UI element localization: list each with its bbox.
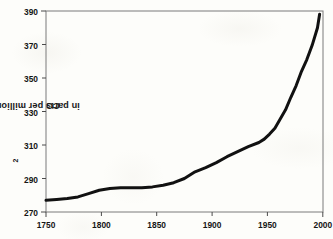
plot-frame: [46, 11, 323, 212]
x-tick-label-1850: 1850: [142, 220, 172, 230]
y-tick-label-330: 330: [14, 108, 38, 118]
y-tick-label-350: 350: [14, 74, 38, 84]
x-tick-label-1950: 1950: [252, 220, 282, 230]
x-tick-label-1900: 1900: [197, 220, 227, 230]
y-tick-label-290: 290: [14, 175, 38, 185]
y-tick-label-370: 370: [14, 41, 38, 51]
x-tick-label-1750: 1750: [31, 220, 61, 230]
x-axis-ticks: [46, 212, 323, 217]
y-axis-ticks: [41, 11, 46, 212]
y-tick-label-390: 390: [14, 7, 38, 17]
co2-concentration-chart: CO2 in parts per million (ppm) 390 370: [0, 0, 333, 239]
x-tick-label-1800: 1800: [86, 220, 116, 230]
y-tick-label-270: 270: [14, 208, 38, 218]
x-tick-label-2000: 2000: [308, 220, 333, 230]
plot-area: [0, 0, 333, 239]
co2-line-series: [46, 14, 320, 200]
y-tick-label-310: 310: [14, 141, 38, 151]
